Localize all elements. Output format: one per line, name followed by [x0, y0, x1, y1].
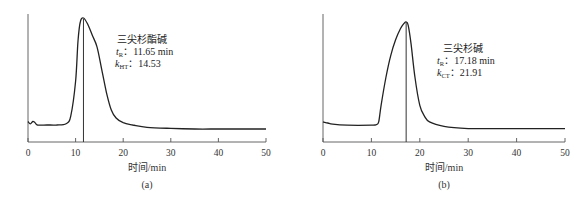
x-tick-label: 40 [214, 148, 224, 158]
x-axis-title-a: 时间/min [128, 161, 166, 173]
x-ticks-a: 01020304050 [26, 138, 271, 158]
x-tick-label: 20 [415, 148, 425, 158]
panel-label-b: (b) [438, 179, 450, 191]
chromatogram-figure: 01020304050 时间/min (a) 三尖杉酯碱 tR：11.65 mi… [0, 0, 588, 204]
chromatogram-panel-a: 01020304050 时间/min (a) 三尖杉酯碱 tR：11.65 mi… [26, 14, 271, 191]
peak-annotation-a: 三尖杉酯碱 tR：11.65 min kHT：14.53 [115, 33, 173, 70]
capacity-factor-label-a: kHT：14.53 [115, 58, 161, 70]
retention-time-label-b: tR：17.18 min [437, 55, 495, 67]
compound-name-b: 三尖杉碱 [443, 42, 483, 54]
chromatogram-panel-b: 01020304050 时间/min (b) 三尖杉碱 tR：17.18 min… [321, 14, 570, 191]
x-tick-label: 0 [26, 148, 31, 158]
peak-annotation-b: 三尖杉碱 tR：17.18 min kCT：21.91 [437, 42, 495, 79]
x-tick-label: 30 [463, 148, 473, 158]
x-tick-label: 50 [560, 148, 570, 158]
x-axis-title-b: 时间/min [425, 161, 463, 173]
x-tick-label: 50 [261, 148, 271, 158]
x-tick-label: 0 [321, 148, 326, 158]
panel-label-a: (a) [141, 179, 152, 191]
x-ticks-b: 01020304050 [321, 138, 570, 158]
capacity-factor-label-b: kCT：21.91 [437, 67, 482, 79]
x-tick-label: 40 [512, 148, 522, 158]
compound-name-a: 三尖杉酯碱 [117, 33, 167, 45]
x-tick-label: 10 [71, 148, 81, 158]
x-tick-label: 30 [166, 148, 176, 158]
retention-time-label-a: tR：11.65 min [116, 46, 173, 58]
x-tick-label: 10 [367, 148, 377, 158]
x-tick-label: 20 [118, 148, 128, 158]
